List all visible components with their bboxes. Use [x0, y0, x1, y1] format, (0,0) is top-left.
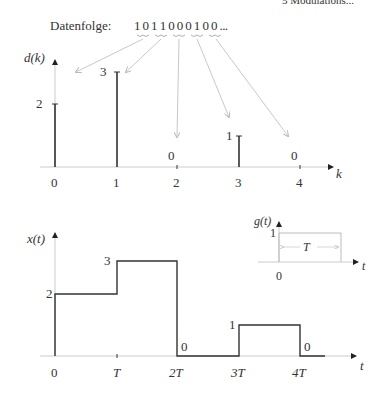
dk-value-3: 1	[226, 128, 233, 143]
dk-value-2: 0	[168, 148, 175, 163]
xt-tick-3: 3T	[230, 365, 246, 380]
chapter-header: 5 Modulations...	[282, 0, 354, 6]
sequence-label: Datenfolge:	[50, 18, 111, 33]
xt-tick-4: 4T	[292, 365, 307, 380]
dk-tick-3: 3	[235, 175, 242, 190]
dk-xlabel: k	[336, 166, 342, 181]
dk-value-4: 0	[291, 148, 298, 163]
modulation-diagram: 5 Modulations... Datenfolge: 1 0 1 1 0 0…	[0, 0, 386, 401]
xt-value-2: 0	[181, 339, 188, 354]
xt-xlabel: t	[360, 358, 364, 373]
xt-tick-1: T	[113, 365, 121, 380]
dk-tick-2: 2	[173, 175, 180, 190]
dk-tick-1: 1	[113, 175, 120, 190]
xt-value-3: 1	[229, 317, 236, 332]
gt-level: 1	[270, 226, 276, 240]
dk-tick-0: 0	[51, 175, 58, 190]
xt-tick-0: 0	[51, 365, 58, 380]
xt-value-0: 2	[46, 286, 53, 301]
gt-origin: 0	[276, 269, 282, 283]
gt-width-label: T	[303, 240, 311, 254]
bit-sequence: 1 0 1 1 0 0 0 1 0 0 ...	[134, 18, 228, 33]
dk-value-1: 3	[100, 64, 107, 79]
xt-plot: x(t) t 2 3 0 1 0 0 T 2T 3T 4T	[26, 231, 364, 380]
gt-plot: g(t) t T 1 0	[254, 214, 366, 283]
dk-ylabel: d(k)	[24, 50, 45, 65]
gt-ylabel: g(t)	[254, 214, 271, 228]
dk-plot: d(k) k 2 3 0 1 0 0 1 2 3 4	[24, 50, 342, 190]
dk-value-0: 2	[36, 96, 43, 111]
group-brackets	[137, 35, 221, 37]
mapping-arrows	[76, 39, 288, 137]
gt-xlabel: t	[362, 259, 366, 273]
xt-tick-2: 2T	[169, 365, 184, 380]
dk-tick-4: 4	[296, 175, 303, 190]
xt-value-4: 0	[304, 339, 311, 354]
xt-value-1: 3	[104, 253, 111, 268]
xt-ylabel: x(t)	[26, 231, 45, 246]
